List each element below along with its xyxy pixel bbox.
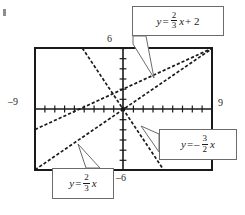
callout-bl-equals: = — [75, 178, 81, 189]
callout-right-fraction: 3 2 — [202, 134, 209, 153]
callout-top-variable: x — [179, 16, 184, 27]
corner-tick-mark — [3, 9, 6, 16]
callout-top-equals: = — [162, 16, 168, 27]
callout-bl-lhs: y — [69, 178, 74, 189]
callout-bl-numerator: 2 — [83, 173, 90, 182]
callout-equation-right: y = – 3 2 x — [159, 129, 237, 160]
callout-bl-variable: x — [92, 178, 97, 189]
x-min-label: –9 — [8, 96, 18, 107]
callout-top-lhs: y — [157, 16, 162, 27]
callout-top-tail-term: + 2 — [185, 16, 199, 27]
callout-equation-top: y = 2 3 x + 2 — [132, 6, 224, 36]
callout-top-numerator: 2 — [171, 11, 178, 20]
callout-right-lhs: y — [181, 139, 186, 150]
callout-right-denominator: 2 — [202, 144, 209, 154]
callout-top-denominator: 3 — [171, 20, 178, 30]
callout-equation-bottom-left: y = 2 3 x — [52, 168, 114, 199]
figure-canvas: –9 9 6 –6 y = 2 3 x + 2 y = 2 3 x — [0, 0, 245, 215]
callout-right-variable: x — [210, 139, 215, 150]
callout-right-equals: = — [187, 139, 193, 150]
origin-point — [121, 107, 126, 112]
callout-bl-fraction: 2 3 — [83, 173, 90, 192]
x-max-label: 9 — [218, 97, 223, 108]
callout-top-fraction: 2 3 — [171, 11, 178, 30]
y-max-label: 6 — [107, 33, 112, 44]
callout-bl-denominator: 3 — [83, 183, 90, 193]
y-min-label: –6 — [116, 172, 126, 183]
callout-right-numerator: 3 — [202, 134, 209, 143]
callout-right-sign: – — [194, 139, 200, 150]
